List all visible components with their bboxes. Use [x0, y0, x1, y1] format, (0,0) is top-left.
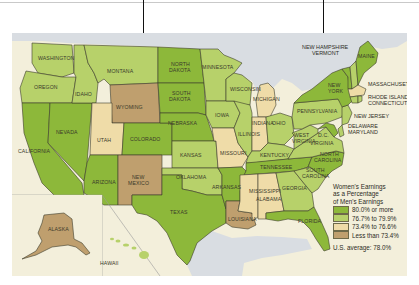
legend-item-80-plus: 80.0% or more	[333, 206, 413, 214]
label-connecticut: CONNECTICUT	[368, 100, 407, 106]
label-hawaii: HAWAII	[100, 260, 119, 266]
label-missouri: MISSOURI	[220, 150, 246, 156]
label-west-virginia-2: VIRGINIA	[292, 138, 316, 144]
label-utah: UTAH	[97, 137, 111, 143]
label-arkansas: ARKANSAS	[212, 184, 241, 190]
label-montana: MONTANA	[107, 68, 134, 74]
label-alabama: ALABAMA	[256, 196, 282, 202]
state-ohio[interactable]	[266, 113, 294, 145]
state-wyoming[interactable]	[110, 83, 160, 123]
label-kentucky: KENTUCKY	[260, 152, 289, 158]
state-rhode-island[interactable]	[358, 96, 362, 103]
label-pennsylvania: PENNSYLVANIA	[297, 108, 338, 114]
label-nebraska: NEBRASKA	[168, 120, 197, 126]
legend-swatch	[333, 231, 349, 239]
legend-item-less-73: Less than 73.4%	[333, 231, 413, 239]
label-dc: D.C.	[318, 132, 329, 138]
label-ohio: OHIO	[272, 120, 286, 126]
label-texas: TEXAS	[170, 209, 188, 215]
top-divider	[0, 2, 419, 3]
state-delaware[interactable]	[338, 125, 344, 137]
state-pennsylvania[interactable]	[292, 99, 344, 129]
label-washington: WASHINGTON	[38, 55, 75, 61]
label-michigan: MICHIGAN	[253, 96, 280, 102]
label-indiana: INDIANA	[252, 120, 274, 126]
label-minnesota: MINNESOTA	[202, 64, 234, 70]
legend-swatch	[333, 206, 349, 214]
label-kansas: KANSAS	[180, 152, 202, 158]
label-wyoming: WYOMING	[116, 104, 143, 110]
label-new-york-2: YORK	[328, 88, 344, 94]
label-illinois: ILLINOIS	[238, 131, 261, 137]
legend-item-73-76: 73.4% to 76.6%	[333, 223, 413, 231]
label-iowa: IOWA	[215, 112, 229, 118]
label-california: CALIFORNIA	[18, 148, 51, 154]
label-tennessee: TENNESSEE	[260, 164, 293, 170]
label-south-dakota-2: DAKOTA	[169, 96, 191, 102]
label-arizona: ARIZONA	[92, 179, 116, 185]
state-hawaii[interactable]	[110, 238, 149, 259]
state-new-jersey[interactable]	[342, 105, 352, 125]
legend-swatch	[333, 223, 349, 231]
label-new-mexico-2: MEXICO	[128, 180, 149, 186]
label-florida: FLORIDA	[298, 218, 322, 224]
label-north-carolina-2: CAROLINA	[314, 157, 342, 163]
label-georgia: GEORGIA	[282, 185, 307, 191]
us-average: U.S. average: 78.0%	[333, 244, 413, 251]
legend-title-line-1: Women's Earnings	[333, 183, 413, 190]
legend-swatch	[333, 214, 349, 222]
legend-label: 73.4% to 76.6%	[352, 223, 396, 230]
label-south-carolina-2: CAROLINA	[302, 173, 330, 179]
label-oklahoma: OKLAHOMA	[176, 174, 207, 180]
label-idaho: IDAHO	[75, 91, 92, 97]
legend-title-line-2: as a Percentage	[333, 190, 413, 197]
legend-item-76-79: 76.7% to 79.9%	[333, 214, 413, 222]
label-nevada: NEVADA	[56, 129, 78, 135]
label-vermont: VERMONT	[312, 50, 340, 56]
label-north-dakota-2: DAKOTA	[169, 67, 191, 73]
label-louisiana: LOUISIANA	[228, 216, 257, 222]
label-massachusetts: MASSACHUSETTS	[368, 81, 407, 87]
label-new-jersey: NEW JERSEY	[354, 113, 389, 119]
legend-title-line-3: of Men's Earnings	[333, 198, 413, 205]
label-oregon: OREGON	[34, 84, 58, 90]
label-maryland: MARYLAND	[348, 129, 378, 135]
label-alaska: ALASKA	[48, 226, 69, 232]
label-colorado: COLORADO	[130, 136, 161, 142]
label-mississippi: MISSISSIPPI	[249, 188, 281, 194]
legend-label: Less than 73.4%	[352, 232, 399, 239]
legend-label: 76.7% to 79.9%	[352, 215, 396, 222]
label-maine: MAINE	[358, 53, 375, 59]
label-wisconsin: WISCONSIN	[230, 86, 261, 92]
legend: Women's Earnings as a Percentage of Men'…	[333, 183, 413, 251]
legend-label: 80.0% or more	[352, 206, 393, 213]
